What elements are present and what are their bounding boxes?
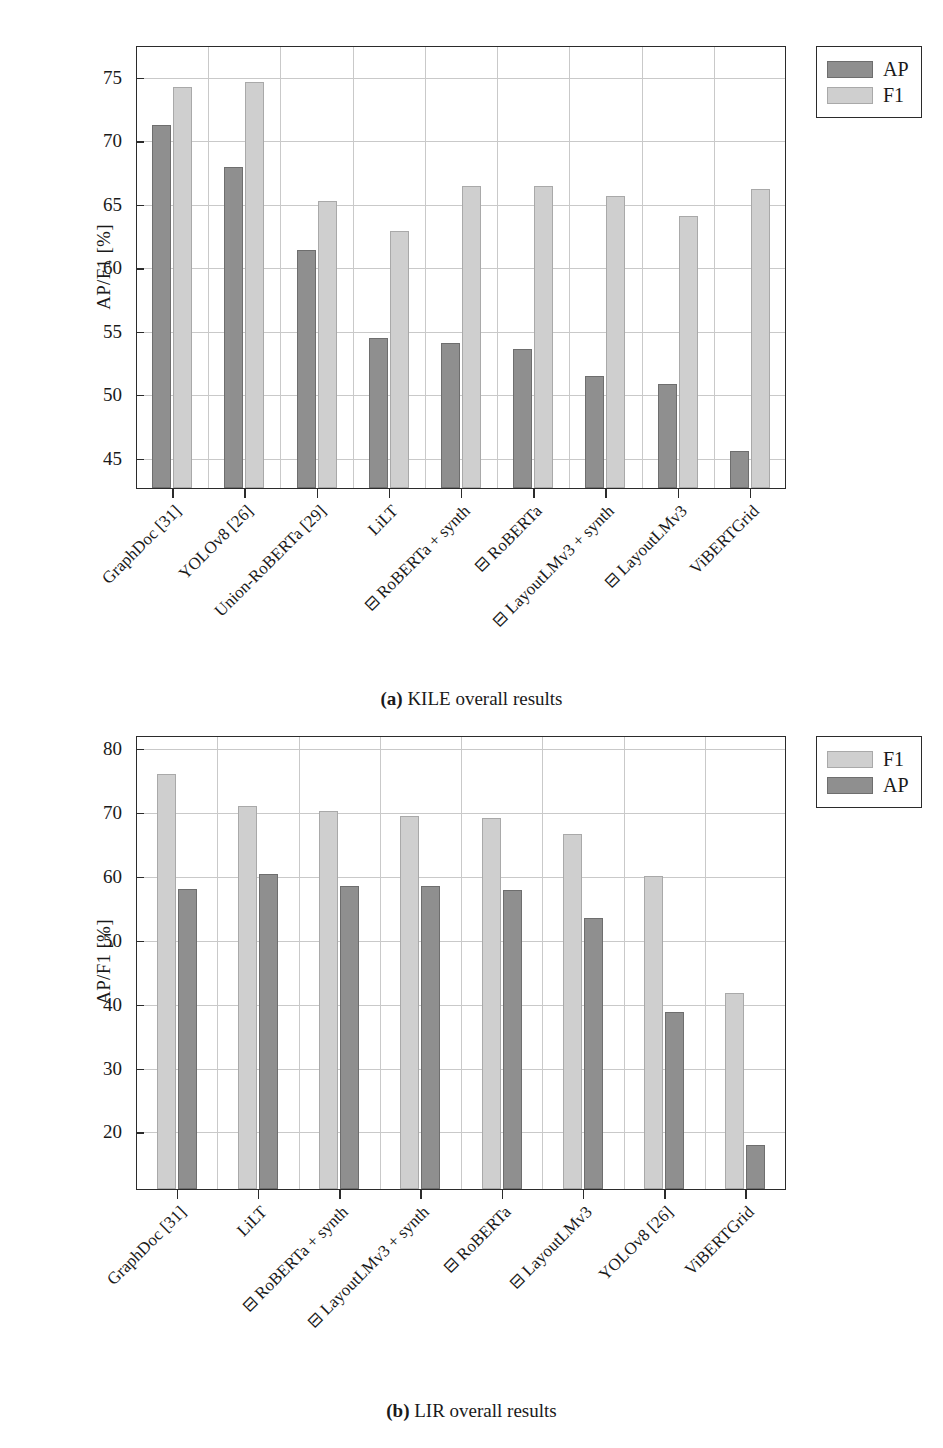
- gridline-vertical: [569, 47, 570, 488]
- y-tick-mark: [136, 813, 144, 814]
- x-tick-mark: [583, 1190, 584, 1199]
- y-tick-label: 75: [74, 68, 122, 87]
- caption-tag-b: (b): [386, 1400, 409, 1421]
- legend-swatch-f1-icon: [827, 751, 873, 768]
- bar-ap: [665, 1012, 684, 1189]
- y-tick-mark: [136, 1132, 144, 1133]
- bar-ap: [178, 889, 197, 1189]
- y-tick-mark: [136, 941, 144, 942]
- gridline-vertical: [299, 737, 300, 1189]
- bar-ap: [730, 451, 749, 488]
- gridline-vertical: [542, 737, 543, 1189]
- legend-item-ap[interactable]: AP: [827, 56, 909, 82]
- legend-label: F1: [883, 749, 904, 769]
- x-tick-mark: [244, 489, 245, 498]
- y-tick-label: 20: [74, 1122, 122, 1141]
- bar-ap: [297, 250, 316, 488]
- legend-kile[interactable]: APF1: [816, 46, 922, 118]
- x-tick-mark: [172, 489, 173, 498]
- y-tick-mark: [136, 205, 144, 206]
- y-tick-mark: [136, 332, 144, 333]
- x-tick-mark: [177, 1190, 178, 1199]
- x-tick-mark: [533, 489, 534, 498]
- gridline-vertical: [217, 737, 218, 1189]
- caption-text-b: LIR overall results: [414, 1400, 556, 1421]
- bar-ap: [503, 890, 522, 1189]
- gridline-vertical: [353, 47, 354, 488]
- bar-ap: [658, 384, 677, 488]
- y-tick-mark: [136, 749, 144, 750]
- gridline-horizontal: [137, 78, 785, 79]
- gridline-vertical: [461, 737, 462, 1189]
- legend-item-ap[interactable]: AP: [827, 772, 909, 798]
- x-tick-mark: [258, 1190, 259, 1199]
- gridline-vertical: [208, 47, 209, 488]
- legend-swatch-ap-icon: [827, 777, 873, 794]
- bar-f1: [245, 82, 264, 488]
- x-tick-mark: [605, 489, 606, 498]
- bar-f1: [173, 87, 192, 488]
- legend-label: AP: [883, 59, 909, 79]
- gridline-vertical: [497, 47, 498, 488]
- legend-item-f1[interactable]: F1: [827, 82, 909, 108]
- legend-item-f1[interactable]: F1: [827, 746, 909, 772]
- bar-ap: [224, 167, 243, 488]
- y-tick-label: 60: [74, 867, 122, 886]
- bar-f1: [400, 816, 419, 1189]
- y-tick-label: 65: [74, 195, 122, 214]
- gridline-vertical: [425, 47, 426, 488]
- x-tick-mark: [339, 1190, 340, 1199]
- bar-f1: [751, 189, 770, 488]
- x-tick-mark: [502, 1190, 503, 1199]
- caption-tag-a: (a): [380, 688, 402, 709]
- bar-ap: [746, 1145, 765, 1189]
- y-tick-label: 45: [74, 449, 122, 468]
- caption-kile: (a) KILE overall results: [0, 688, 943, 710]
- x-tick-mark: [389, 489, 390, 498]
- y-tick-label: 60: [74, 258, 122, 277]
- y-tick-mark: [136, 78, 144, 79]
- legend-label: AP: [883, 775, 909, 795]
- y-tick-mark: [136, 268, 144, 269]
- bar-f1: [482, 818, 501, 1189]
- x-tick-mark: [461, 489, 462, 498]
- bar-ap: [152, 125, 171, 488]
- bar-ap: [513, 349, 532, 488]
- bar-f1: [157, 774, 176, 1189]
- y-tick-label: 30: [74, 1059, 122, 1078]
- gridline-vertical: [624, 737, 625, 1189]
- bar-ap: [421, 886, 440, 1189]
- y-tick-mark: [136, 1005, 144, 1006]
- bar-ap: [259, 874, 278, 1189]
- x-tick-mark: [664, 1190, 665, 1199]
- legend-lir[interactable]: F1AP: [816, 736, 922, 808]
- gridline-vertical: [380, 737, 381, 1189]
- gridline-vertical: [642, 47, 643, 488]
- x-tick-mark: [420, 1190, 421, 1199]
- y-tick-label: 55: [74, 322, 122, 341]
- bar-f1: [319, 811, 338, 1189]
- gridline-vertical: [705, 737, 706, 1189]
- y-tick-label: 80: [74, 739, 122, 758]
- bar-f1: [318, 201, 337, 488]
- bar-f1: [644, 876, 663, 1189]
- y-tick-mark: [136, 459, 144, 460]
- bar-f1: [725, 993, 744, 1189]
- bar-ap: [584, 918, 603, 1189]
- bar-f1: [563, 834, 582, 1189]
- gridline-vertical: [714, 47, 715, 488]
- legend-swatch-ap-icon: [827, 61, 873, 78]
- bar-ap: [585, 376, 604, 488]
- y-tick-mark: [136, 877, 144, 878]
- figure-panel-kile: AP/F1 [%] 45505560657075 GraphDoc [31]YO…: [0, 0, 943, 724]
- gridline-vertical: [280, 47, 281, 488]
- figure-panel-lir: AP/F1 [%] 20304050607080 GraphDoc [31]Li…: [0, 724, 943, 1448]
- y-tick-mark: [136, 141, 144, 142]
- y-tick-label: 40: [74, 995, 122, 1014]
- gridline-horizontal: [137, 141, 785, 142]
- y-tick-mark: [136, 395, 144, 396]
- x-tick-mark: [317, 489, 318, 498]
- x-tick-mark: [678, 489, 679, 498]
- bar-f1: [390, 231, 409, 488]
- x-tick-mark: [750, 489, 751, 498]
